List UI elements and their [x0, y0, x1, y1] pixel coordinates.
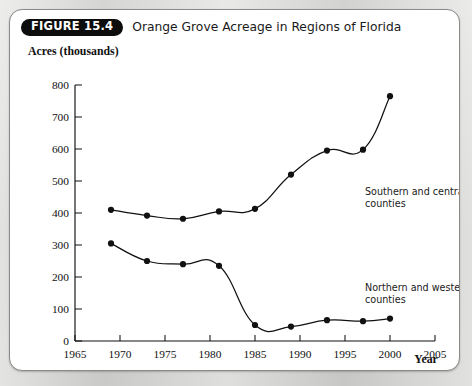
y-axis-ticks: 0100200300400500600700800	[52, 79, 82, 347]
figure-number-badge: FIGURE 15.4	[21, 19, 123, 36]
figure-page: FIGURE 15.4 Orange Grove Acreage in Regi…	[0, 0, 472, 386]
series-label-northern-line2: counties	[365, 294, 406, 305]
data-series-group	[108, 93, 393, 332]
x-tick-label: 1990	[289, 348, 312, 360]
line-chart-svg: Acres (thousands) 0100200300400500600700…	[10, 38, 459, 370]
series-label-southern-line1: Southern and central	[365, 186, 459, 197]
y-axis-title: Acres (thousands)	[28, 44, 119, 58]
x-axis-ticks: 196519701975198019851990199520002005	[64, 335, 447, 360]
y-tick-label: 200	[52, 271, 69, 283]
series-line	[111, 243, 390, 331]
data-point-marker	[180, 261, 186, 267]
y-tick-label: 700	[52, 111, 69, 123]
x-tick-label: 1985	[244, 348, 267, 360]
data-point-marker	[324, 317, 330, 323]
data-point-marker	[216, 263, 222, 269]
data-point-marker	[144, 258, 150, 264]
y-tick-label: 500	[52, 175, 69, 187]
series-label-northern-line1: Northern and western	[365, 282, 459, 293]
chart-plot-area: Acres (thousands) 0100200300400500600700…	[10, 38, 459, 370]
x-tick-label: 1965	[64, 348, 87, 360]
data-point-marker	[216, 208, 222, 214]
data-point-marker	[180, 216, 186, 222]
x-tick-label: 1970	[109, 348, 132, 360]
series-southern-central	[108, 93, 393, 222]
data-point-marker	[144, 212, 150, 218]
data-point-marker	[360, 147, 366, 153]
y-tick-label: 600	[52, 143, 69, 155]
x-tick-label: 1980	[199, 348, 222, 360]
figure-card: FIGURE 15.4 Orange Grove Acreage in Regi…	[9, 9, 460, 371]
y-tick-label: 100	[52, 303, 69, 315]
figure-title: Orange Grove Acreage in Regions of Flori…	[132, 20, 401, 34]
figure-caption-row: FIGURE 15.4 Orange Grove Acreage in Regi…	[10, 15, 401, 39]
y-tick-label: 300	[52, 239, 69, 251]
data-point-marker	[324, 148, 330, 154]
data-point-marker	[108, 240, 114, 246]
x-tick-label: 1975	[154, 348, 177, 360]
data-point-marker	[387, 316, 393, 322]
data-point-marker	[288, 172, 294, 178]
series-label-southern-line2: counties	[365, 198, 406, 209]
x-axis-title: Year	[414, 352, 438, 366]
x-tick-label: 1995	[334, 348, 357, 360]
data-point-marker	[288, 324, 294, 330]
series-northern-western	[108, 240, 393, 331]
y-tick-label: 400	[52, 207, 69, 219]
x-tick-label: 2000	[379, 348, 402, 360]
y-tick-label: 800	[52, 79, 69, 91]
series-line	[111, 96, 390, 219]
data-point-marker	[387, 93, 393, 99]
data-point-marker	[108, 207, 114, 213]
y-tick-label: 0	[63, 335, 69, 347]
data-point-marker	[360, 318, 366, 324]
data-point-marker	[252, 322, 258, 328]
data-point-marker	[252, 206, 258, 212]
